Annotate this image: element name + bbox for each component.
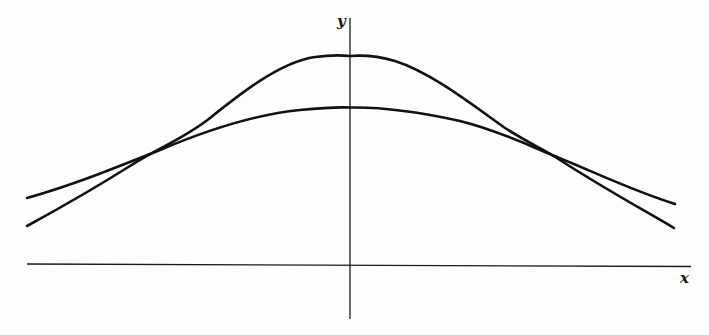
figure: y x	[0, 0, 709, 335]
x-axis-label: x	[680, 271, 689, 286]
plot-canvas	[0, 0, 709, 335]
x-axis	[27, 264, 691, 267]
y-axis-label: y	[337, 14, 346, 29]
flat-curve	[27, 107, 675, 204]
